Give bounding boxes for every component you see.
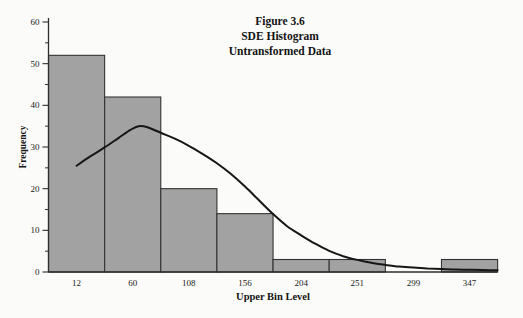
histogram-plot: 01020304050601260108156204251299347	[0, 0, 523, 318]
x-axis-tick-label: 60	[128, 278, 138, 288]
y-axis-tick-label: 50	[31, 59, 41, 69]
histogram-bar	[105, 97, 161, 272]
y-axis-tick-label: 20	[31, 184, 41, 194]
histogram-bar	[329, 260, 385, 273]
x-axis-tick-label: 299	[407, 278, 421, 288]
y-axis-tick-label: 60	[31, 17, 41, 27]
x-axis-tick-label: 156	[238, 278, 252, 288]
histogram-bar	[217, 214, 273, 272]
y-axis-tick-label: 0	[35, 267, 40, 277]
x-axis-tick-label: 251	[351, 278, 365, 288]
histogram-bar	[49, 55, 105, 272]
y-axis-tick-label: 10	[31, 225, 41, 235]
x-axis-tick-label: 12	[72, 278, 81, 288]
histogram-figure: Figure 3.6 SDE Histogram Untransformed D…	[0, 0, 523, 318]
x-axis-tick-label: 347	[463, 278, 477, 288]
x-axis-tick-label: 204	[294, 278, 308, 288]
y-axis-tick-label: 40	[31, 100, 41, 110]
y-axis-tick-label: 30	[31, 142, 41, 152]
x-axis-tick-label: 108	[182, 278, 196, 288]
histogram-bar	[273, 260, 329, 273]
histogram-bar	[161, 189, 217, 272]
